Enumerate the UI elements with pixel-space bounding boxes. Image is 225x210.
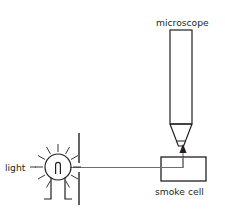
scattered-ray-arrowhead bbox=[179, 144, 186, 153]
brownian-motion-smoke-cell-diagram: microscope light smoke cell bbox=[0, 0, 225, 210]
smoke-cell-internal-ray bbox=[161, 157, 183, 168]
diagram-canvas: microscope light smoke cell bbox=[0, 0, 225, 210]
microscope-barrel bbox=[170, 30, 192, 124]
bulb-filament bbox=[56, 162, 61, 174]
smoke-cell-label: smoke cell bbox=[155, 186, 204, 197]
bulb-radiating-rays bbox=[35, 144, 81, 188]
microscope-taper bbox=[170, 124, 192, 141]
bulb-glass-envelope bbox=[45, 154, 71, 180]
microscope-group bbox=[170, 30, 192, 146]
light-label: light bbox=[5, 162, 26, 173]
light-bulb-group bbox=[35, 144, 81, 199]
smoke-cell-group bbox=[161, 157, 206, 181]
microscope-label: microscope bbox=[156, 17, 209, 28]
microscope-tip bbox=[177, 141, 186, 146]
